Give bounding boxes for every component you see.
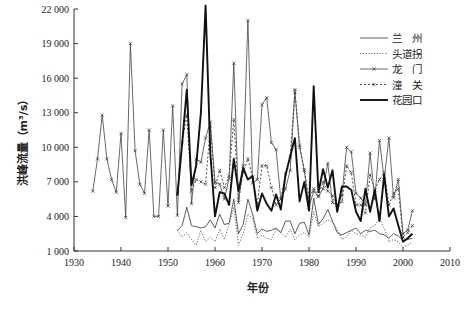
x-tick-label: 1980 xyxy=(299,257,319,268)
x-tick-label: 1990 xyxy=(346,257,366,268)
data-point xyxy=(364,211,367,214)
data-point xyxy=(204,183,207,186)
series-2 xyxy=(91,19,414,235)
data-point xyxy=(359,203,362,206)
legend-label: 头道拐 xyxy=(392,48,422,60)
series-4 xyxy=(177,6,412,242)
legend-item: 头道拐 xyxy=(360,48,422,60)
data-point xyxy=(378,178,381,181)
legend-label: 潼 关 xyxy=(392,79,423,91)
data-point xyxy=(199,180,202,183)
x-tick-label: 1940 xyxy=(111,257,131,268)
x-tick-label: 1950 xyxy=(158,257,178,268)
x-tick-label: 1970 xyxy=(252,257,272,268)
y-tick-label: 13 000 xyxy=(42,107,70,118)
y-tick-label: 22 000 xyxy=(42,4,70,15)
x-tick-label: 2010 xyxy=(440,257,460,268)
data-point xyxy=(411,224,414,227)
y-axis-title: 洪峰流量（m³/s） xyxy=(16,94,30,187)
data-point xyxy=(326,189,329,192)
legend-item: 兰 州 xyxy=(360,32,422,44)
y-tick-label: 7 000 xyxy=(47,176,70,187)
x-ticks: 193019401950196019701980199020002010 xyxy=(64,247,460,268)
y-tick-label: 16 000 xyxy=(42,73,70,84)
y-tick-label: 19 000 xyxy=(42,38,70,49)
data-point xyxy=(195,178,198,181)
x-tick-label: 1930 xyxy=(64,257,84,268)
data-point xyxy=(340,200,343,203)
y-tick-label: 10 000 xyxy=(42,142,70,153)
y-tick-label: 4 000 xyxy=(47,211,70,222)
legend-item: 潼 关 xyxy=(360,79,423,91)
plot-area xyxy=(91,6,414,248)
data-point xyxy=(359,196,362,199)
x-tick-label: 1960 xyxy=(205,257,225,268)
x-axis-title: 年份 xyxy=(247,281,270,295)
legend: 兰 州头道拐龙 门潼 关花园口 xyxy=(360,32,423,106)
legend-item: 龙 门 xyxy=(360,63,422,75)
series-line xyxy=(177,90,412,238)
y-ticks: 1 0004 0007 00010 00013 00016 00019 0002… xyxy=(42,4,79,257)
series-line xyxy=(177,6,412,242)
x-tick-label: 2000 xyxy=(393,257,413,268)
legend-label: 兰 州 xyxy=(392,32,422,44)
y-tick-label: 1 000 xyxy=(47,246,70,257)
legend-label: 龙 门 xyxy=(392,63,422,75)
chart: 193019401950196019701980199020002010 1 0… xyxy=(0,0,474,310)
legend-item: 花园口 xyxy=(360,94,422,106)
series-line xyxy=(177,207,412,247)
legend-label: 花园口 xyxy=(392,94,422,106)
series-1 xyxy=(177,207,412,247)
